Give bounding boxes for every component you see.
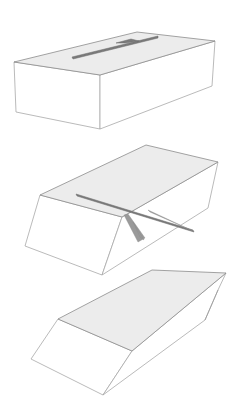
- block-step-1: [14, 32, 215, 129]
- cutting-diagram: [0, 0, 247, 415]
- block-step-3: [31, 270, 226, 395]
- block-step-2: [25, 145, 218, 275]
